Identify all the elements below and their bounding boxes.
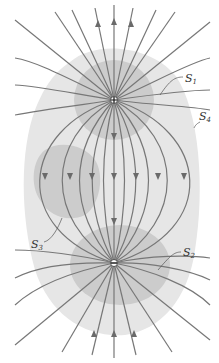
label-s1: S1 <box>185 72 197 86</box>
positive-charge <box>111 97 118 104</box>
negative-charge <box>111 260 118 267</box>
label-s4: S4 <box>199 110 211 124</box>
dipole-field-diagram: S1 S4 S2 S3 <box>0 0 219 363</box>
